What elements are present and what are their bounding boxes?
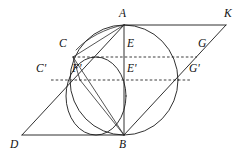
segment-Fprime-to-B xyxy=(80,80,124,135)
point-label-F-prime: F' xyxy=(72,63,81,75)
point-label-C-prime: C' xyxy=(36,63,46,75)
geometric-figure: A K B D C E G C' F' E' G' xyxy=(0,0,246,157)
point-label-K: K xyxy=(224,8,232,20)
point-label-B: B xyxy=(119,139,126,151)
point-label-G-prime: G' xyxy=(189,63,200,75)
point-label-D: D xyxy=(10,139,18,151)
figure-canvas xyxy=(0,0,246,157)
arc-A-to-C-outer xyxy=(76,25,124,50)
point-label-C: C xyxy=(59,38,67,50)
point-label-E: E xyxy=(127,38,134,50)
point-label-A: A xyxy=(119,8,126,20)
point-label-G: G xyxy=(198,38,206,50)
point-label-E-prime: E' xyxy=(127,63,136,75)
